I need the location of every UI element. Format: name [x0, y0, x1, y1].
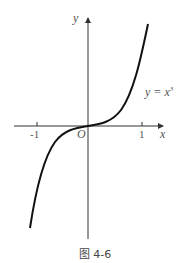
x-axis-label: x: [159, 127, 166, 141]
function-label: y = x3: [144, 85, 174, 99]
origin-label: O: [77, 127, 86, 141]
y-axis-label: y: [72, 11, 79, 25]
figure-caption: 图 4-6: [0, 245, 190, 261]
x-tick-label-neg1: -1: [30, 128, 39, 140]
cubic-function-plot: y x O -1 1 y = x3: [0, 0, 190, 263]
x-tick-label-1: 1: [139, 128, 145, 140]
